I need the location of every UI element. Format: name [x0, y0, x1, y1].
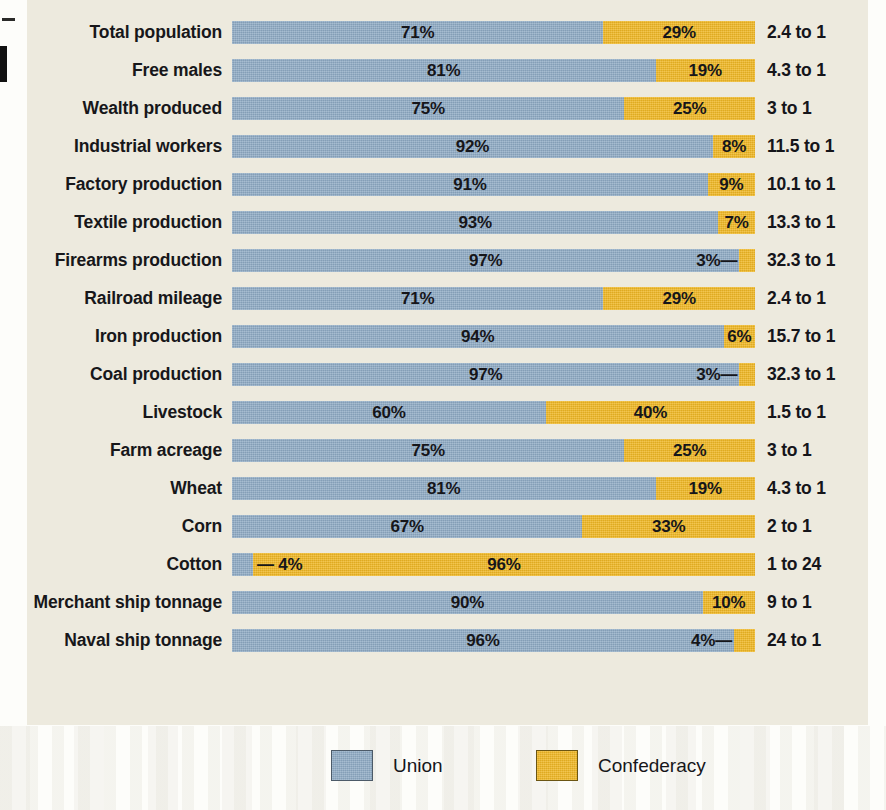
bar-value-confederacy: 25% — [624, 97, 755, 120]
row-ratio-label: 9 to 1 — [767, 589, 812, 615]
stacked-bar: 60%40% — [232, 401, 755, 424]
bar-value-confederacy: 29% — [603, 287, 755, 310]
row-category-label: Wheat — [27, 474, 222, 502]
row-ratio-label: 11.5 to 1 — [767, 133, 834, 159]
row-category-label: Railroad mileage — [27, 284, 222, 312]
bar-value-union: 91% — [232, 173, 708, 196]
bar-value-confederacy: 29% — [603, 21, 755, 44]
bar-value-union: 92% — [232, 135, 713, 158]
bar-value-union: 75% — [232, 97, 624, 120]
row-ratio-label: 24 to 1 — [767, 627, 821, 653]
confederacy-swatch-icon — [536, 750, 578, 781]
bar-value-union: 81% — [232, 477, 656, 500]
stacked-bar: 90%10% — [232, 591, 755, 614]
row-category-label: Factory production — [27, 170, 222, 198]
bar-row: Factory production91%9%10.1 to 1 — [27, 170, 868, 208]
union-swatch-icon — [331, 750, 373, 781]
bar-value-union: 67% — [232, 515, 582, 538]
row-ratio-label: 2.4 to 1 — [767, 285, 826, 311]
stacked-bar: 75%25% — [232, 439, 755, 462]
bar-value-union: 97% — [232, 249, 739, 272]
bar-value-confederacy: 25% — [624, 439, 755, 462]
bar-segment-confederacy — [734, 629, 755, 652]
stacked-bar: 71%29% — [232, 21, 755, 44]
bar-row: Wealth produced75%25%3 to 1 — [27, 94, 868, 132]
bar-value-union: 93% — [232, 211, 718, 234]
bar-value-confederacy: 19% — [656, 59, 755, 82]
bar-value-confederacy: 3%— — [696, 363, 737, 386]
row-ratio-label: 10.1 to 1 — [767, 171, 835, 197]
row-category-label: Free males — [27, 56, 222, 84]
bar-row: Cotton— 4%96%1 to 24 — [27, 550, 868, 588]
row-ratio-label: 13.3 to 1 — [767, 209, 835, 235]
bar-row: Free males81%19%4.3 to 1 — [27, 56, 868, 94]
legend-label-confederacy: Confederacy — [598, 751, 706, 781]
row-category-label: Industrial workers — [27, 132, 222, 160]
stacked-bar: 92%8% — [232, 135, 755, 158]
bar-value-union: 96% — [232, 629, 734, 652]
bar-value-confederacy: 10% — [703, 591, 755, 614]
row-ratio-label: 32.3 to 1 — [767, 361, 835, 387]
bar-row: Wheat81%19%4.3 to 1 — [27, 474, 868, 512]
bar-value-confederacy: 19% — [656, 477, 755, 500]
bar-row: Total population71%29%2.4 to 1 — [27, 18, 868, 56]
row-ratio-label: 3 to 1 — [767, 437, 812, 463]
bar-value-confederacy: 96% — [253, 553, 755, 576]
legend-label-union: Union — [393, 751, 443, 781]
bar-row: Farm acreage75%25%3 to 1 — [27, 436, 868, 474]
stacked-bar: 81%19% — [232, 59, 755, 82]
bar-row: Livestock60%40%1.5 to 1 — [27, 398, 868, 436]
row-ratio-label: 2 to 1 — [767, 513, 812, 539]
bar-row: Merchant ship tonnage90%10%9 to 1 — [27, 588, 868, 626]
stacked-bar: 75%25% — [232, 97, 755, 120]
bar-row: Coal production97%3%—32.3 to 1 — [27, 360, 868, 398]
bar-value-union: 94% — [232, 325, 724, 348]
bar-value-confederacy: 4%— — [691, 629, 732, 652]
stacked-bar: 97%3%— — [232, 363, 755, 386]
bar-value-confederacy: 3%— — [696, 249, 737, 272]
chart-legend: Union Confederacy — [0, 748, 886, 794]
stacked-bar: 96%4%— — [232, 629, 755, 652]
bar-segment-union — [232, 553, 253, 576]
row-category-label: Coal production — [27, 360, 222, 388]
bar-row: Corn67%33%2 to 1 — [27, 512, 868, 550]
row-category-label: Iron production — [27, 322, 222, 350]
page-gutter-artifact — [0, 46, 7, 82]
row-ratio-label: 4.3 to 1 — [767, 475, 826, 501]
row-ratio-label: 1.5 to 1 — [767, 399, 826, 425]
bar-value-confederacy: 8% — [713, 135, 755, 158]
stacked-bar: 97%3%— — [232, 249, 755, 272]
row-ratio-label: 2.4 to 1 — [767, 19, 826, 45]
bar-value-union: 75% — [232, 439, 624, 462]
bar-row: Firearms production97%3%—32.3 to 1 — [27, 246, 868, 284]
bar-rows-container: Total population71%29%2.4 to 1Free males… — [27, 18, 868, 664]
row-category-label: Corn — [27, 512, 222, 540]
bar-row: Textile production93%7%13.3 to 1 — [27, 208, 868, 246]
bar-row: Iron production94%6%15.7 to 1 — [27, 322, 868, 360]
bar-row: Railroad mileage71%29%2.4 to 1 — [27, 284, 868, 322]
bar-value-union: 60% — [232, 401, 546, 424]
row-category-label: Textile production — [27, 208, 222, 236]
bar-row: Naval ship tonnage96%4%—24 to 1 — [27, 626, 868, 664]
chart-panel: Total population71%29%2.4 to 1Free males… — [27, 0, 868, 725]
bar-row: Industrial workers92%8%11.5 to 1 — [27, 132, 868, 170]
bar-value-union: 71% — [232, 21, 603, 44]
stacked-bar: 94%6% — [232, 325, 755, 348]
bar-value-union: 90% — [232, 591, 703, 614]
bar-segment-confederacy — [739, 363, 755, 386]
stacked-bar: 91%9% — [232, 173, 755, 196]
bar-value-confederacy: 9% — [708, 173, 755, 196]
row-ratio-label: 15.7 to 1 — [767, 323, 835, 349]
bar-value-union: 97% — [232, 363, 739, 386]
row-category-label: Wealth produced — [27, 94, 222, 122]
row-ratio-label: 1 to 24 — [767, 551, 821, 577]
row-category-label: Livestock — [27, 398, 222, 426]
row-ratio-label: 32.3 to 1 — [767, 247, 835, 273]
row-category-label: Merchant ship tonnage — [27, 588, 222, 616]
stacked-bar: — 4%96% — [232, 553, 755, 576]
row-category-label: Naval ship tonnage — [27, 626, 222, 654]
bar-value-union: 71% — [232, 287, 603, 310]
bar-value-confederacy: 6% — [724, 325, 755, 348]
bar-segment-confederacy — [739, 249, 755, 272]
row-category-label: Firearms production — [27, 246, 222, 274]
